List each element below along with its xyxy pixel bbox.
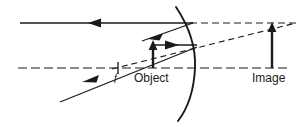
optics-ray-diagram: f Object Image bbox=[0, 0, 302, 127]
reflected-ray-focus-arrowhead bbox=[82, 75, 99, 83]
object-horizontal-ray-arrowhead bbox=[165, 41, 179, 50]
reflected-ray-from-mirror-top bbox=[142, 23, 193, 41]
incident-ray-arrowhead bbox=[88, 19, 101, 28]
object-label: Object bbox=[134, 72, 169, 84]
virtual-image-construction-ray bbox=[112, 23, 296, 69]
convex-mirror-arc bbox=[176, 7, 195, 121]
reflected-ray-through-focal-point bbox=[60, 47, 197, 102]
ray-diagram-canvas bbox=[0, 0, 302, 127]
focal-point-label: f bbox=[114, 72, 117, 83]
reflected-ray-top-arrowhead bbox=[148, 34, 163, 41]
image-label: Image bbox=[252, 72, 285, 84]
